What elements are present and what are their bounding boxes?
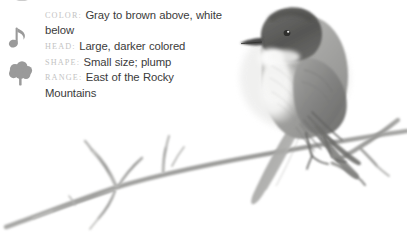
fact-value-shape: Small size; plump xyxy=(84,56,172,68)
fact-label-head: Head: xyxy=(45,42,76,51)
palette-icon xyxy=(4,0,38,20)
bird-attribute-list: Color: Gray to brown above, white below … xyxy=(45,8,225,101)
tree-icon xyxy=(4,58,36,90)
bird-id-card: Color: Gray to brown above, white below … xyxy=(0,0,407,237)
fact-label-shape: Shape: xyxy=(45,58,80,67)
fact-row-head: Head: Large, darker colored xyxy=(45,39,225,54)
music-note-icon xyxy=(4,24,34,54)
fact-value-head: Large, darker colored xyxy=(79,40,185,52)
fact-label-range: Range: xyxy=(45,73,82,82)
fact-row-color: Color: Gray to brown above, white below xyxy=(45,8,225,38)
attribute-icon-rail xyxy=(0,0,44,115)
fact-row-range: Range: East of the Rocky Mountains xyxy=(45,70,225,100)
fact-row-shape: Shape: Small size; plump xyxy=(45,55,225,70)
fact-label-color: Color: xyxy=(45,11,82,20)
